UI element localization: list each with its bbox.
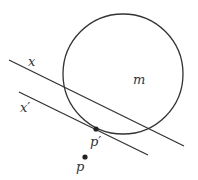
point-p-prime (93, 126, 98, 131)
label-x-prime: x′ (20, 100, 30, 115)
line-x-prime (19, 92, 148, 155)
label-p-prime: p′ (90, 134, 101, 149)
label-x: x (28, 54, 36, 69)
label-p: p (76, 159, 85, 174)
diagram-canvas: x x′ m p′ p (0, 0, 198, 180)
label-m: m (133, 72, 145, 87)
